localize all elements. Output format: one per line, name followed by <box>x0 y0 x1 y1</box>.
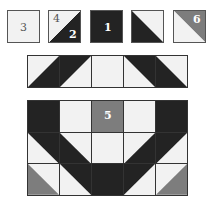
key-tile-1: 1 <box>90 10 123 43</box>
tile-label-1: 1 <box>104 21 112 34</box>
tile-label-3: 3 <box>20 21 27 34</box>
block-cell-r1c1 <box>28 101 59 132</box>
key-tile-6: 6 <box>173 10 206 43</box>
block-cell-r2c4 <box>124 133 155 164</box>
border-strip <box>27 55 188 88</box>
block-cell-r3c4 <box>124 164 155 195</box>
tile-label-5: 5 <box>104 109 112 122</box>
strip-cell-1 <box>28 56 59 87</box>
key-tile-half-dark <box>131 10 164 43</box>
tile-label-6: 6 <box>193 13 201 26</box>
strip-cell-2 <box>60 56 91 87</box>
block-cell-r1c5 <box>156 101 187 132</box>
block-cell-r1c4 <box>124 101 155 132</box>
key-tile-4-2: 4 2 <box>48 10 81 43</box>
block-cell-r1c3: 5 <box>92 101 123 132</box>
block-cell-r1c2 <box>60 101 91 132</box>
block-cell-r3c2 <box>60 164 91 195</box>
tile-label-4: 4 <box>53 12 60 25</box>
block-cell-r2c5 <box>156 133 187 164</box>
block-cell-r3c1 <box>28 164 59 195</box>
key-tile-3: 3 <box>7 10 40 43</box>
block-cell-r2c3 <box>92 133 123 164</box>
strip-cell-4 <box>124 56 155 87</box>
block-cell-r3c3 <box>92 164 123 195</box>
strip-cell-5 <box>156 56 187 87</box>
tile-label-2: 2 <box>69 28 77 41</box>
block-cell-r3c5 <box>156 164 187 195</box>
strip-cell-3 <box>92 56 123 87</box>
block-cell-r2c1 <box>28 133 59 164</box>
quilt-block: 5 <box>27 100 188 196</box>
half-square-triangle-icon <box>132 11 163 42</box>
block-cell-r2c2 <box>60 133 91 164</box>
